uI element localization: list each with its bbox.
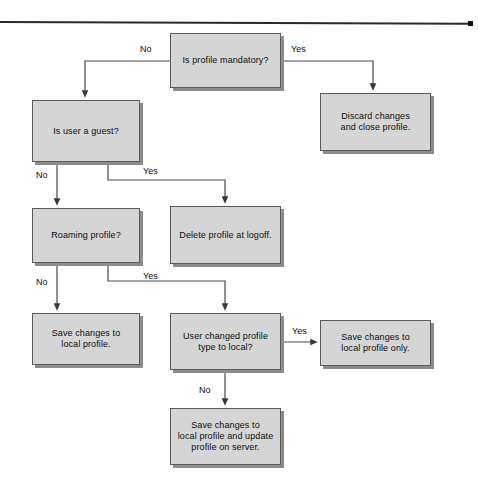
node-label: Is user a guest?: [48, 126, 124, 137]
edge-label-changed-yes: Yes: [292, 326, 307, 336]
node-label: Roaming profile?: [46, 230, 126, 241]
node-label: Delete profile at logoff.: [174, 230, 276, 241]
node-user-changed-profile-type[interactable]: User changed profile type to local?: [170, 313, 281, 370]
edge-mandatory-no: [85, 61, 170, 94]
edge-label-roaming-yes: Yes: [143, 271, 158, 281]
edge-mandatory-yes: [281, 61, 373, 87]
node-save-changes-local-profile[interactable]: Save changes to local profile.: [32, 313, 140, 365]
edge-label-mandatory-yes: Yes: [291, 44, 306, 54]
edge-label-changed-no: No: [199, 385, 211, 395]
edge-label-roaming-no: No: [36, 277, 48, 287]
node-label: Save changes to local profile and update…: [173, 420, 278, 453]
top-rule-end-marker: [468, 21, 473, 26]
node-label: Is profile mandatory?: [177, 55, 273, 66]
node-discard-changes[interactable]: Discard changes and close profile.: [320, 93, 431, 151]
node-save-local-and-update-server[interactable]: Save changes to local profile and update…: [170, 408, 281, 465]
edge-label-guest-no: No: [36, 170, 48, 180]
node-is-profile-mandatory[interactable]: Is profile mandatory?: [170, 33, 281, 88]
top-rule-line: [0, 21, 471, 25]
node-delete-profile-at-logoff[interactable]: Delete profile at logoff.: [170, 206, 281, 264]
edge-label-mandatory-no: No: [140, 44, 152, 54]
edge-label-guest-yes: Yes: [143, 166, 158, 176]
node-label: User changed profile type to local?: [178, 331, 273, 353]
node-roaming-profile[interactable]: Roaming profile?: [32, 208, 140, 263]
node-label: Discard changes and close profile.: [336, 111, 416, 133]
node-label: Save changes to local profile only.: [336, 332, 415, 354]
flowchart-canvas: Is profile mandatory? Discard changes an…: [0, 0, 478, 488]
node-is-user-a-guest[interactable]: Is user a guest?: [32, 100, 140, 162]
edge-roaming-yes: [108, 263, 225, 307]
node-label: Save changes to local profile.: [47, 328, 126, 350]
edge-guest-yes: [108, 162, 225, 200]
node-save-changes-local-only[interactable]: Save changes to local profile only.: [320, 320, 431, 366]
